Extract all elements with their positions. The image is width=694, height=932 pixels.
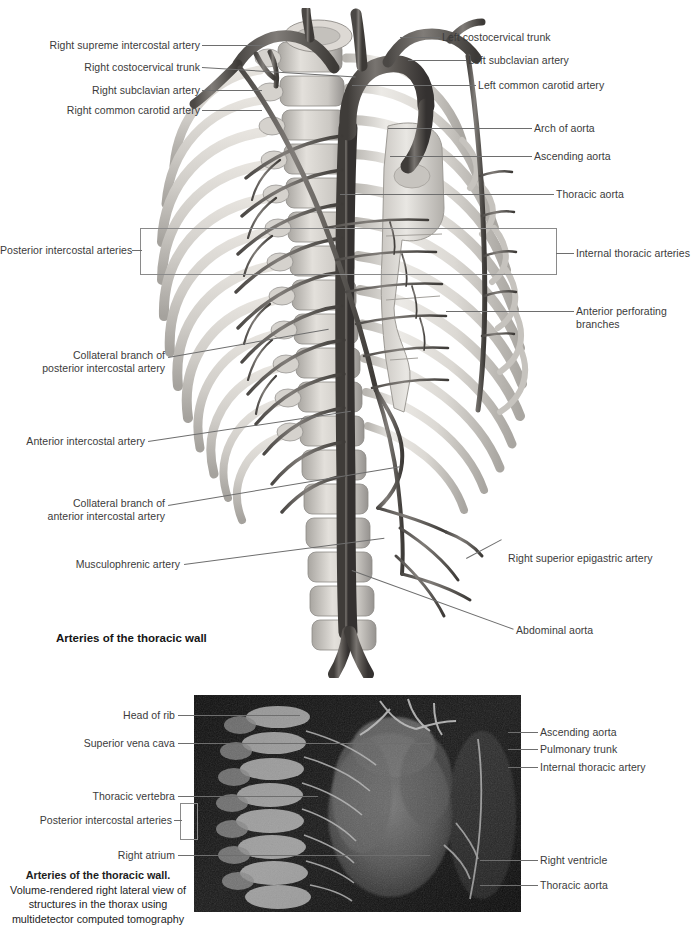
leader-ct-ascending-aorta <box>508 732 538 733</box>
caption-body: Volume-rendered right lateral view of st… <box>10 884 186 925</box>
label-anterior-intercostal-artery: Anterior intercostal artery <box>0 435 145 448</box>
leader-ct-head-of-rib <box>178 715 300 716</box>
thoracic-wall-illustration <box>150 8 570 678</box>
label-anterior-perforating-branches: Anterior perforating branches <box>576 305 667 331</box>
label-ct-right-ventricle: Right ventricle <box>540 854 607 867</box>
leader-ct-posterior-intercostal-arteries <box>174 820 182 821</box>
label-musculophrenic-artery: Musculophrenic artery <box>0 558 180 571</box>
label-ascending-aorta: Ascending aorta <box>534 150 611 163</box>
label-left-common-carotid-artery: Left common carotid artery <box>478 79 604 92</box>
ct-volume-rendering <box>194 695 521 912</box>
label-ct-head-of-rib: Head of rib <box>0 709 175 722</box>
leader-ct-pulmonary-trunk <box>508 749 538 750</box>
label-right-common-carotid-artery: Right common carotid artery <box>0 104 200 117</box>
label-ct-thoracic-vertebra: Thoracic vertebra <box>0 790 175 803</box>
leader-right-subclavian-artery <box>202 90 262 91</box>
label-right-subclavian-artery: Right subclavian artery <box>0 84 200 97</box>
leader-anterior-perforating-branches <box>446 311 574 312</box>
leader-ct-right-ventricle <box>480 860 538 861</box>
label-left-costocervical-trunk: Left costocervical trunk <box>442 31 551 44</box>
label-collateral-branch-posterior-intercostal: Collateral branch of posterior intercost… <box>0 349 165 375</box>
label-right-supreme-intercostal-artery: Right supreme intercostal artery <box>0 39 200 52</box>
atlas-page: Right supreme intercostal artery Right c… <box>0 0 694 932</box>
label-ct-right-atrium: Right atrium <box>0 849 175 862</box>
leader-thoracic-aorta <box>340 194 554 195</box>
label-posterior-intercostal-arteries: Posterior intercostal arteries <box>0 244 130 257</box>
leader-arch-of-aorta <box>388 128 532 129</box>
label-abdominal-aorta: Abdominal aorta <box>516 624 593 637</box>
leader-right-supreme-intercostal-artery <box>202 45 264 46</box>
leader-right-common-carotid-artery <box>202 110 262 111</box>
leader-ct-thoracic-vertebra <box>178 796 318 797</box>
label-ct-internal-thoracic-artery: Internal thoracic artery <box>540 761 646 774</box>
leader-posterior-intercostal-arteries <box>132 250 142 251</box>
figure-top-title: Arteries of the thoracic wall <box>56 632 207 644</box>
label-collateral-branch-anterior-intercostal: Collateral branch of anterior intercosta… <box>0 497 165 523</box>
leader-left-costocervical-trunk <box>400 37 440 38</box>
figure-bottom-caption: Arteries of the thoracic wall. Volume-re… <box>6 868 190 926</box>
ct-posterior-intercostal-bracket <box>180 803 198 840</box>
leader-ct-superior-vena-cava <box>178 743 430 744</box>
label-internal-thoracic-arteries: Internal thoracic arteries <box>576 247 690 260</box>
label-thoracic-aorta: Thoracic aorta <box>556 188 624 201</box>
label-ct-pulmonary-trunk: Pulmonary trunk <box>540 743 617 756</box>
leader-internal-thoracic-arteries <box>556 253 574 254</box>
label-ct-thoracic-aorta: Thoracic aorta <box>540 879 608 892</box>
leader-ct-internal-thoracic-artery <box>508 767 538 768</box>
leader-ascending-aorta <box>390 156 532 157</box>
label-ct-posterior-intercostal-arteries: Posterior intercostal arteries <box>0 814 172 827</box>
label-ct-ascending-aorta: Ascending aorta <box>540 726 617 739</box>
label-arch-of-aorta: Arch of aorta <box>534 122 595 135</box>
caption-title: Arteries of the thoracic wall. <box>6 868 190 883</box>
label-ct-superior-vena-cava: Superior vena cava <box>0 737 175 750</box>
leader-left-subclavian-artery <box>408 60 466 61</box>
label-left-subclavian-artery: Left subclavian artery <box>468 54 569 67</box>
label-right-costocervical-trunk: Right costocervical trunk <box>0 61 200 74</box>
leader-ct-right-atrium <box>178 855 430 856</box>
label-right-superior-epigastric-artery: Right superior epigastric artery <box>508 552 653 565</box>
leader-ct-thoracic-aorta <box>480 885 538 886</box>
leader-left-common-carotid-artery <box>352 85 476 86</box>
posterior-intercostal-bracket <box>140 228 557 275</box>
